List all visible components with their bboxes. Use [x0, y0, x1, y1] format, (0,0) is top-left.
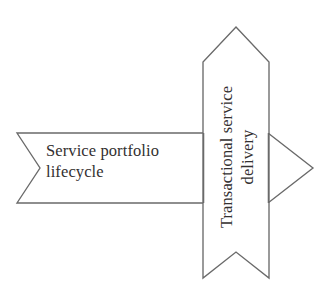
transactional-service-delivery-label: Transactional service delivery	[216, 62, 259, 252]
transactional-service-delivery-label-wrap: Transactional service delivery	[204, 62, 270, 252]
service-portfolio-lifecycle-arrowhead-shape[interactable]	[268, 133, 313, 203]
diagram-canvas: Service portfolio lifecycle Transactiona…	[0, 0, 330, 298]
service-portfolio-lifecycle-label: Service portfolio lifecycle	[46, 140, 196, 182]
